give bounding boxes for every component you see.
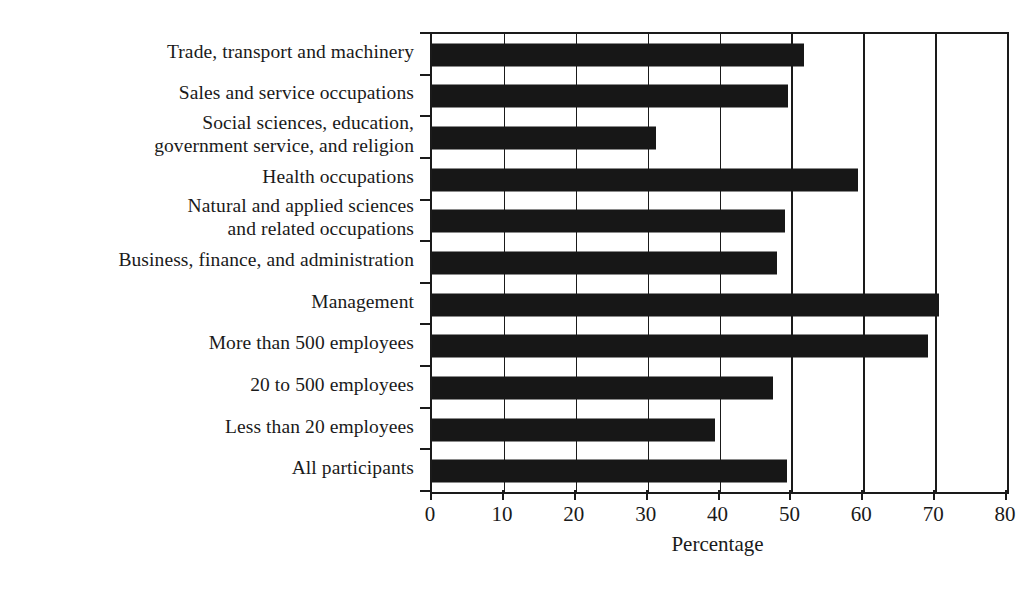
bar [432,293,939,316]
x-axis-tick [861,490,863,500]
category-label: Trade, transport and machinery [167,39,414,62]
bar [432,210,785,233]
bar [432,127,656,150]
x-axis-tick-label: 0 [400,502,460,527]
x-axis-tick [789,490,791,500]
gridline-50 [791,34,793,492]
figure-caption [6,578,426,590]
x-axis-tick [933,490,935,500]
bar [432,85,788,108]
gridline-60 [863,34,865,492]
x-axis-tick-label: 20 [544,502,604,527]
x-axis-tick [1005,490,1007,500]
x-axis-tick [502,490,504,500]
plot-area [430,32,1009,494]
category-label: Sales and service occupations [179,81,414,104]
category-label: Less than 20 employees [225,414,414,437]
category-label: Business, finance, and administration [118,248,414,271]
x-axis-tick [574,490,576,500]
x-axis-tick [646,490,648,500]
bar [432,335,928,358]
bar [432,43,804,66]
category-label: Management [311,289,414,312]
bar [432,418,715,441]
gridline-70 [935,34,937,492]
x-axis-title: Percentage [430,532,1005,557]
bar [432,460,787,483]
x-axis-tick-label: 30 [616,502,676,527]
x-axis-tick-label: 60 [831,502,891,527]
category-label: Social sciences, education, government s… [154,111,414,157]
bar [432,252,777,275]
x-axis-tick-label: 70 [903,502,963,527]
x-axis-tick-label: 10 [472,502,532,527]
x-axis-tick [718,490,720,500]
x-axis-tick-label: 80 [975,502,1034,527]
x-axis-tick-label: 40 [688,502,748,527]
bar [432,168,858,191]
category-label: Natural and applied sciences and related… [188,194,414,240]
category-label: 20 to 500 employees [250,372,414,395]
bar [432,376,773,399]
category-label: All participants [292,456,414,479]
x-axis-tick-label: 50 [759,502,819,527]
x-axis-tick [430,490,432,500]
category-label: Health occupations [262,164,414,187]
category-label-group: Trade, transport and machinerySales and … [0,30,422,490]
category-label: More than 500 employees [209,331,414,354]
bar-chart-figure: Trade, transport and machinerySales and … [0,0,1034,590]
